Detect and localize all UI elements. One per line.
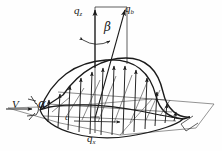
load-arrow-6 (101, 68, 103, 135)
label-velocity: V (12, 99, 19, 110)
diagram-svg (0, 0, 222, 151)
load-arrow-9 (134, 70, 136, 132)
top-frame-lines (95, 7, 127, 122)
beta-angle-arc (83, 40, 110, 44)
load-arrow-7 (112, 66, 114, 135)
load-arrow-5 (90, 72, 92, 134)
grid-span-lower (44, 116, 176, 121)
label-beta: β (104, 21, 111, 33)
load-surface-crest-front (40, 60, 183, 119)
load-arrow-10 (145, 78, 147, 129)
load-arrow-2 (58, 94, 60, 127)
figure-canvas: qz qb β α V c qx (0, 0, 222, 151)
chord-marker (74, 121, 120, 122)
alpha-tick-upper2 (28, 99, 36, 101)
label-qx: qx (87, 133, 96, 146)
beta-arc (83, 40, 110, 44)
label-qz: qz (74, 5, 82, 18)
load-arrow-1 (48, 100, 49, 122)
chord-arrow (74, 121, 120, 122)
tip-tick-c (181, 124, 186, 131)
grid-span-upper (58, 92, 166, 100)
grid-span-mid (48, 104, 172, 112)
planform-ellipse (40, 105, 183, 138)
load-surface (40, 58, 190, 119)
label-qb: qb (125, 3, 134, 16)
plane-inner-left (8, 108, 60, 123)
tip-tick-b (186, 123, 198, 131)
label-alpha: α (38, 98, 46, 110)
label-chord: c (65, 113, 69, 122)
load-arrow-8 (123, 66, 125, 134)
